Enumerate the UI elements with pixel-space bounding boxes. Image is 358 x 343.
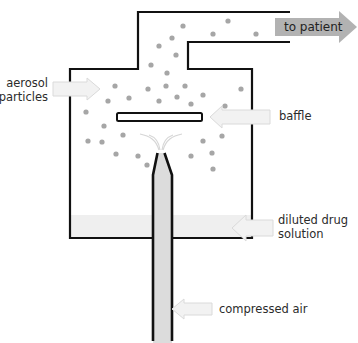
particle bbox=[174, 94, 179, 99]
particle bbox=[148, 62, 153, 67]
particle bbox=[145, 86, 150, 91]
particle bbox=[164, 70, 169, 75]
particle bbox=[99, 139, 104, 144]
particle bbox=[200, 92, 205, 97]
particle bbox=[210, 31, 215, 36]
aerosol-label-line1: aerosol bbox=[0, 76, 48, 90]
particle bbox=[85, 138, 90, 143]
diluted-label-line1: diluted drug bbox=[278, 213, 348, 227]
particle bbox=[222, 103, 227, 108]
particle bbox=[83, 109, 88, 114]
aerosol-label-line2: particles bbox=[0, 90, 48, 104]
particle bbox=[112, 83, 117, 88]
particle bbox=[219, 133, 224, 138]
particle bbox=[163, 83, 168, 88]
particle bbox=[173, 52, 178, 57]
particle bbox=[156, 43, 161, 48]
particle bbox=[144, 162, 149, 167]
particle bbox=[135, 153, 140, 158]
particle bbox=[182, 83, 187, 88]
particle bbox=[188, 153, 193, 158]
aerosol-arrow-icon bbox=[53, 78, 100, 100]
spray-lines bbox=[140, 134, 182, 150]
particle bbox=[169, 35, 174, 40]
baffle-label: baffle bbox=[279, 109, 312, 123]
particle bbox=[200, 138, 205, 143]
nebulizer-diagram bbox=[0, 0, 358, 343]
baffle bbox=[117, 113, 202, 121]
aerosol-particles-label: aerosol particles bbox=[0, 76, 48, 104]
diluted-label-line2: solution bbox=[278, 227, 348, 241]
particle bbox=[101, 123, 106, 128]
particle bbox=[156, 98, 161, 103]
particle bbox=[126, 95, 131, 100]
particle bbox=[188, 101, 193, 106]
particle bbox=[210, 166, 215, 171]
diluted-drug-solution-label: diluted drug solution bbox=[278, 213, 348, 241]
compressed-air-label: compressed air bbox=[219, 302, 307, 316]
baffle-arrow-icon bbox=[210, 106, 270, 128]
air-tube-fill bbox=[153, 153, 172, 343]
compressed-air-arrow-icon bbox=[172, 299, 212, 319]
to-patient-label: to patient bbox=[284, 20, 343, 34]
particle bbox=[120, 132, 125, 137]
particle bbox=[209, 150, 214, 155]
particle bbox=[113, 151, 118, 156]
particle bbox=[253, 31, 258, 36]
particle bbox=[180, 23, 185, 28]
particle bbox=[105, 98, 110, 103]
particle bbox=[238, 86, 243, 91]
particle bbox=[225, 18, 230, 23]
